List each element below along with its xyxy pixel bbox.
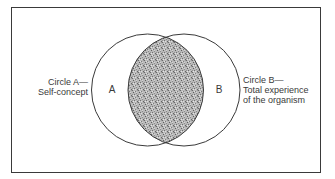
region-label-a: A bbox=[106, 85, 118, 95]
circle-a-caption: Circle A— Self-concept bbox=[38, 77, 88, 97]
circle-b-caption: Circle B— Total experience of the organi… bbox=[243, 75, 309, 105]
circle-b-caption-line: Total experience bbox=[243, 85, 309, 95]
circle-a-caption-line: Self-concept bbox=[38, 87, 88, 97]
venn-diagram: A B Circle A— Self-concept Circle B— Tot… bbox=[0, 0, 335, 179]
circle-b-caption-line: Circle B— bbox=[243, 75, 309, 85]
circle-b-caption-line: of the organism bbox=[243, 95, 309, 105]
region-label-b: B bbox=[213, 85, 225, 95]
circle-a-caption-line: Circle A— bbox=[38, 77, 88, 87]
